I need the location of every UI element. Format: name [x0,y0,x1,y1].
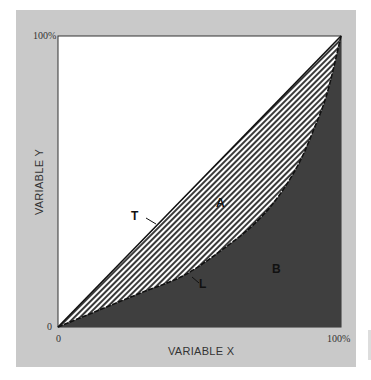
label-b: B [272,262,281,276]
y-axis-label: VARIABLE Y [33,149,45,215]
y-tick-top: 100% [33,30,56,41]
x-tick-right: 100% [327,333,350,344]
label-l: L [199,277,206,291]
x-tick-zero: 0 [56,333,61,344]
label-t: T [131,209,138,223]
x-axis-label: VARIABLE X [168,345,234,357]
y-tick-zero: 0 [47,321,52,332]
lorenz-chart [0,0,371,380]
label-a: A [216,196,225,210]
